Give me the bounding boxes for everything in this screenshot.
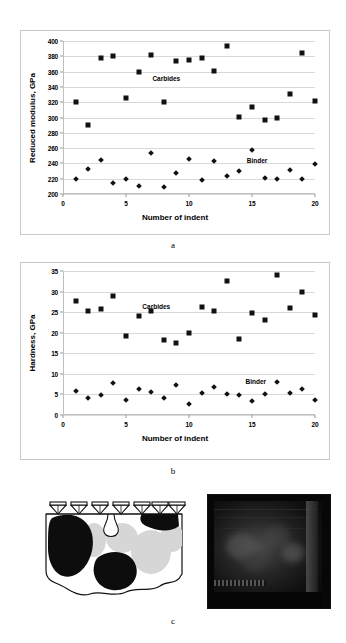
data-point-binder	[111, 380, 117, 386]
data-point-carbides	[136, 69, 141, 74]
y-axis-title: Hardness, GPa	[28, 315, 37, 372]
data-point-binder	[312, 397, 318, 403]
panel-letter-a: a	[0, 240, 346, 250]
x-tick-label: 15	[248, 200, 255, 207]
y-axis-line	[63, 41, 64, 194]
x-tick-mark	[189, 415, 190, 418]
indenter-tip	[50, 502, 66, 514]
data-point-binder	[85, 395, 91, 401]
data-point-binder	[186, 401, 192, 407]
grain-dark-2	[94, 552, 137, 590]
data-point-carbides	[224, 43, 229, 48]
chart-b-plot-area: CarbidesBinder	[63, 271, 315, 415]
data-point-binder	[237, 168, 243, 174]
y-tick-label: 240	[48, 160, 58, 167]
chart-a-plot-area: CarbidesBinder	[63, 41, 315, 194]
indenter-tip	[169, 502, 185, 514]
data-point-carbides	[187, 58, 192, 63]
y-tick-label: 0	[55, 412, 58, 419]
data-point-carbides	[124, 96, 129, 101]
x-tick-mark	[315, 415, 316, 418]
x-tick-mark	[126, 194, 127, 197]
x-tick-mark	[63, 194, 64, 197]
data-point-carbides	[237, 114, 242, 119]
indentation-schematic	[38, 500, 190, 605]
x-tick-label: 5	[124, 421, 128, 428]
x-tick-label: 15	[248, 421, 255, 428]
data-point-carbides	[199, 304, 204, 309]
data-point-carbides	[174, 341, 179, 346]
data-point-binder	[174, 383, 180, 389]
data-point-binder	[300, 176, 306, 182]
data-point-binder	[249, 148, 255, 154]
indenter-group	[50, 502, 185, 514]
data-point-carbides	[287, 306, 292, 311]
data-point-carbides	[98, 307, 103, 312]
x-tick-mark	[252, 194, 253, 197]
y-axis-line	[63, 271, 64, 415]
series-annotation: Carbides	[142, 302, 170, 309]
series-annotation: Binder	[247, 156, 268, 163]
data-point-binder	[136, 183, 142, 189]
x-tick-label: 5	[124, 200, 128, 207]
data-point-binder	[249, 399, 255, 405]
data-point-carbides	[161, 337, 166, 342]
data-point-carbides	[275, 273, 280, 278]
data-point-carbides	[111, 293, 116, 298]
data-point-binder	[161, 184, 167, 190]
data-point-binder	[123, 176, 129, 182]
data-point-carbides	[161, 100, 166, 105]
sem-micrograph	[207, 494, 331, 609]
y-tick-label: 340	[48, 83, 58, 90]
data-point-carbides	[212, 308, 217, 313]
data-point-carbides	[212, 68, 217, 73]
data-point-binder	[274, 379, 280, 385]
indenter-tip	[92, 502, 108, 514]
data-point-carbides	[174, 58, 179, 63]
data-point-carbides	[300, 51, 305, 56]
gridline	[63, 148, 315, 149]
data-point-binder	[136, 387, 142, 393]
panel-a-reduced-modulus: CarbidesBinder 2002202402602803003203403…	[0, 18, 346, 256]
data-point-binder	[174, 170, 180, 176]
data-point-carbides	[111, 54, 116, 59]
x-tick-label: 0	[61, 421, 65, 428]
gridline	[63, 87, 315, 88]
indenter-tip	[152, 502, 168, 514]
data-point-carbides	[149, 308, 154, 313]
data-point-carbides	[86, 309, 91, 314]
y-tick-label: 5	[55, 391, 58, 398]
y-tick-label: 400	[48, 38, 58, 45]
data-point-binder	[85, 166, 91, 172]
data-point-carbides	[187, 331, 192, 336]
data-point-carbides	[136, 314, 141, 319]
data-point-carbides	[124, 333, 129, 338]
panel-b-hardness: CarbidesBinder 0510152025303505101520Num…	[0, 258, 346, 490]
x-axis-title: Number of indent	[21, 434, 329, 443]
data-point-binder	[262, 391, 268, 397]
data-point-carbides	[262, 117, 267, 122]
chart-a-frame: CarbidesBinder 2002202402602803003203403…	[20, 30, 330, 235]
chart-b-frame: CarbidesBinder 0510152025303505101520Num…	[20, 262, 330, 460]
y-tick-label: 300	[48, 114, 58, 121]
data-point-carbides	[224, 279, 229, 284]
gridline	[63, 353, 315, 354]
x-tick-mark	[252, 415, 253, 418]
data-point-binder	[262, 175, 268, 181]
gridline	[63, 72, 315, 73]
series-annotation: Binder	[245, 378, 266, 385]
y-tick-label: 20	[51, 329, 58, 336]
data-point-binder	[111, 180, 117, 186]
data-point-carbides	[300, 289, 305, 294]
data-point-carbides	[98, 55, 103, 60]
y-tick-label: 320	[48, 99, 58, 106]
data-point-carbides	[250, 104, 255, 109]
data-point-binder	[312, 161, 318, 167]
x-axis-title: Number of indent	[21, 213, 329, 222]
indenter-tip	[71, 502, 87, 514]
y-tick-label: 200	[48, 191, 58, 198]
x-tick-label: 0	[61, 200, 65, 207]
y-tick-label: 260	[48, 145, 58, 152]
indenter-tip	[134, 502, 150, 514]
data-point-carbides	[287, 91, 292, 96]
